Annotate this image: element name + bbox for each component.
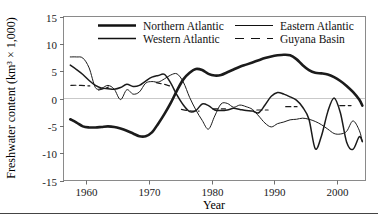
legend-label-western-atlantic: Western Atlantic [143,33,220,45]
legend-label-eastern-atlantic: Eastern Atlantic [280,20,354,32]
legend-label-northern-atlantic: Northern Atlantic [143,20,224,32]
x-tick-label-1980: 1980 [202,186,225,198]
y-tick-label-15: 15 [46,12,58,24]
y-tick-label--15: -15 [42,176,57,188]
y-tick-label-0: 0 [52,94,58,106]
x-tick-label-1960: 1960 [76,186,99,198]
legend-label-guyana-basin: Guyana Basin [280,33,345,46]
y-tick-label--10: -10 [42,148,57,160]
x-tick-label-1970: 1970 [139,186,162,198]
x-tick-label-1990: 1990 [264,186,287,198]
y-axis-title: Freshwater content (km³ × 1,000) [4,17,18,178]
figure-container: 151050-5-10-15 19601970198019902000 Nort… [0,0,378,224]
y-tick-label-10: 10 [46,39,58,51]
freshwater-content-line-chart: 151050-5-10-15 19601970198019902000 Nort… [0,0,378,224]
x-axis-title: Year [203,198,225,212]
y-tick-label--5: -5 [48,121,58,133]
x-tick-label-2000: 2000 [327,186,350,198]
y-tick-label-5: 5 [52,66,58,78]
